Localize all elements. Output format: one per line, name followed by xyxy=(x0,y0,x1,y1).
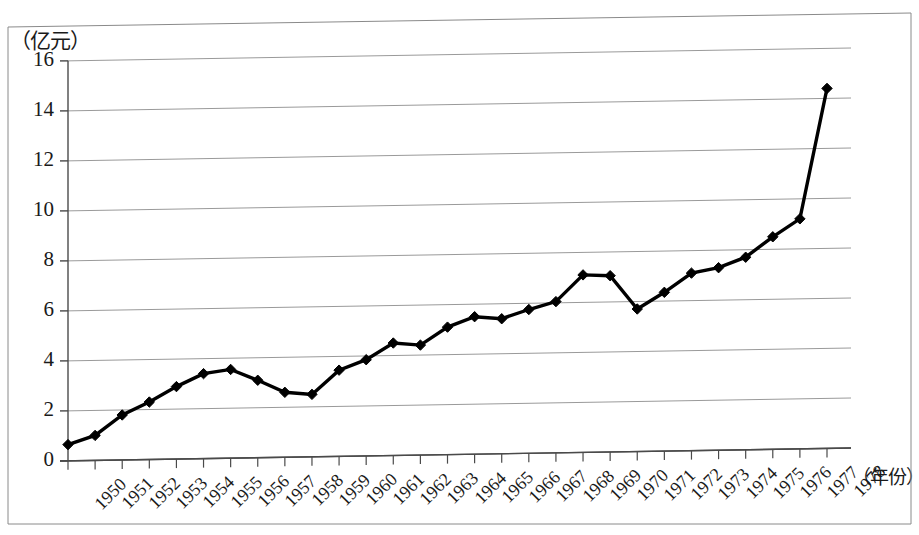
data-point-markers-group xyxy=(63,83,832,450)
y-axis-tick-label: 10 xyxy=(10,197,54,222)
gridline xyxy=(60,398,851,411)
y-axis-tick-label: 2 xyxy=(10,397,54,422)
gridline xyxy=(60,98,851,111)
y-axis-tick-label: 4 xyxy=(10,347,54,372)
data-point-marker xyxy=(63,439,73,449)
line-chart-plot xyxy=(0,0,919,535)
gridline xyxy=(60,298,851,311)
gridline xyxy=(60,48,851,61)
y-axis-tick-label: 16 xyxy=(10,47,54,72)
data-point-marker xyxy=(198,368,208,378)
y-axis-tick-label: 6 xyxy=(10,297,54,322)
gridline xyxy=(60,348,851,361)
data-point-marker xyxy=(822,83,832,93)
data-point-marker xyxy=(713,262,723,272)
data-series-line xyxy=(68,88,827,444)
chart-frame xyxy=(8,13,911,524)
data-point-marker xyxy=(469,311,479,321)
y-axis-tick-label: 14 xyxy=(10,97,54,122)
gridline xyxy=(60,148,851,161)
data-point-marker xyxy=(280,387,290,397)
y-axis-tick-label: 0 xyxy=(10,447,54,472)
y-axis-tick-label: 8 xyxy=(10,247,54,272)
x-axis-line xyxy=(60,448,851,461)
data-point-marker xyxy=(524,304,534,314)
gridline xyxy=(60,248,851,261)
y-axis-tick-label: 12 xyxy=(10,147,54,172)
axis-ticks-group xyxy=(60,61,827,470)
gridlines-group xyxy=(60,48,851,461)
gridline xyxy=(60,198,851,211)
chart-container: （亿元） （年份） 0246810121416 1950195119521953… xyxy=(0,0,919,535)
data-point-marker xyxy=(497,314,507,324)
data-point-marker xyxy=(225,364,235,374)
data-point-marker xyxy=(253,375,263,385)
